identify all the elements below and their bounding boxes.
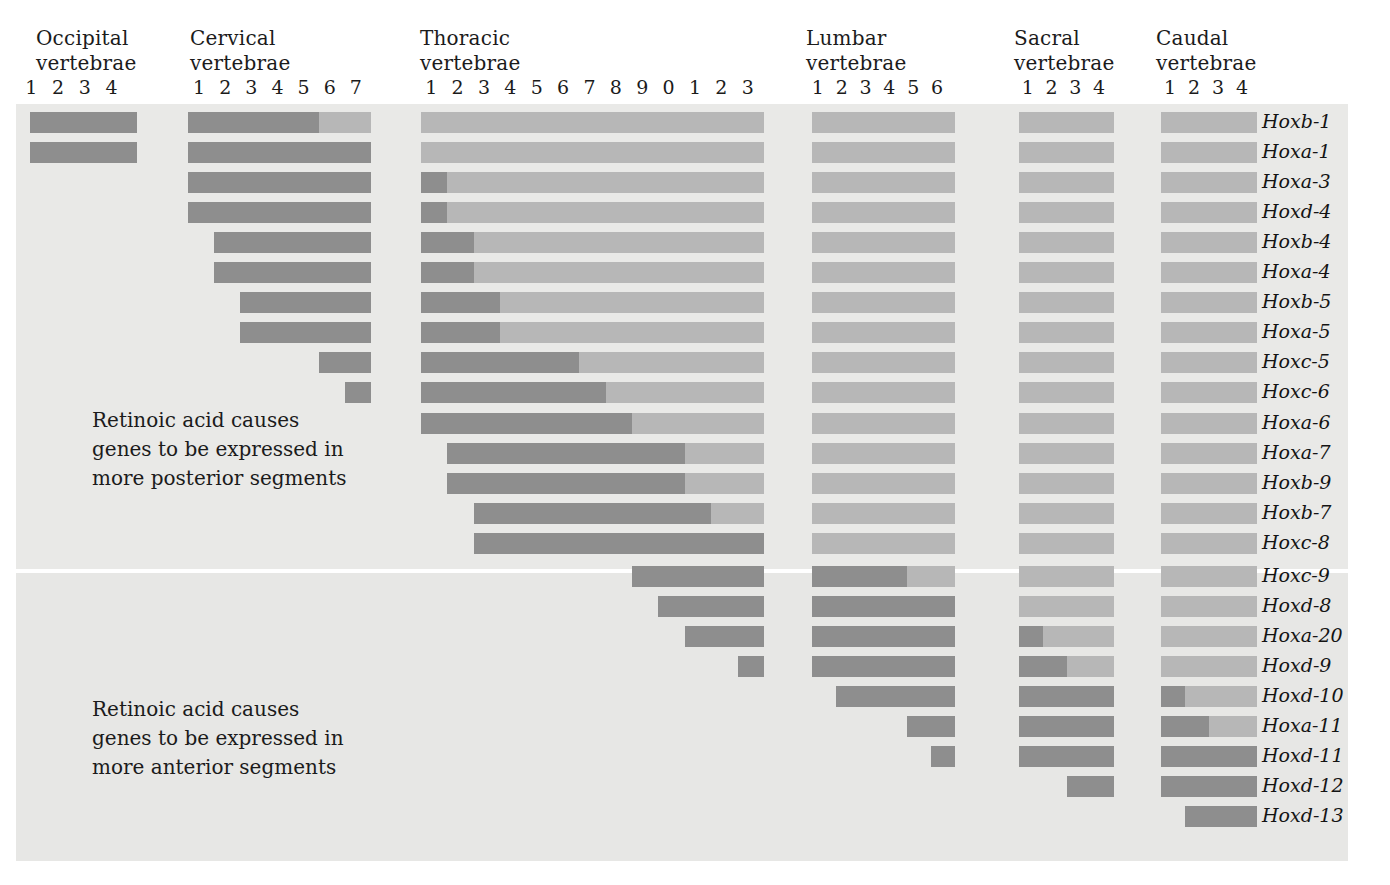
expression-band-cervical-dark: [188, 142, 371, 163]
bar-row: [0, 626, 1340, 647]
expression-band-caudal-light: [1161, 443, 1257, 464]
expression-band-cervical-dark: [319, 352, 371, 373]
bar-row: [0, 503, 1340, 524]
expression-band-sacral-light: [1019, 382, 1114, 403]
expression-band-caudal-light: [1161, 322, 1257, 343]
expression-band-sacral-light: [1019, 172, 1114, 193]
bar-row: [0, 322, 1340, 343]
expression-band-caudal-light: [1161, 626, 1257, 647]
vertebra-number-thoracic-7: 7: [576, 76, 602, 98]
expression-band-sacral-light: [1019, 533, 1114, 554]
expression-band-cervical-dark: [188, 172, 371, 193]
expression-band-caudal-light: [1161, 596, 1257, 617]
gene-label: Hoxd-11: [1262, 745, 1343, 766]
expression-band-caudal-light: [1161, 352, 1257, 373]
gene-label: Hoxb-1: [1262, 111, 1331, 132]
gene-label: Hoxa-20: [1262, 625, 1343, 646]
vertebra-number-thoracic-9: 9: [629, 76, 655, 98]
gene-label: Hoxd-8: [1262, 595, 1331, 616]
expression-band-sacral-light: [1019, 473, 1114, 494]
expression-band-sacral-dark: [1019, 686, 1114, 707]
expression-band-caudal-light: [1161, 292, 1257, 313]
number-row-cervical: 1234567: [186, 76, 393, 98]
expression-band-caudal-light: [1161, 112, 1257, 133]
expression-band-sacral-light: [1019, 443, 1114, 464]
expression-band-thoracic-light: [500, 322, 764, 343]
expression-band-sacral-dark: [1067, 776, 1115, 797]
expression-band-sacral-light: [1067, 656, 1115, 677]
bar-row: [0, 202, 1340, 223]
bar-row: [0, 596, 1340, 617]
bar-row: [0, 382, 1340, 403]
vertebra-number-caudal-2: 2: [1182, 76, 1206, 98]
expression-band-thoracic-light: [579, 352, 764, 373]
expression-band-lumbar-light: [812, 413, 955, 434]
annotation-posterior: Retinoic acid causes genes to be express…: [92, 406, 347, 493]
vertebra-number-sacral-2: 2: [1040, 76, 1064, 98]
gene-label: Hoxb-5: [1262, 291, 1331, 312]
expression-band-thoracic-light: [685, 473, 764, 494]
vertebra-number-cervical-5: 5: [291, 76, 317, 98]
expression-band-thoracic-light: [606, 382, 764, 403]
gene-label: Hoxc-9: [1262, 565, 1330, 586]
expression-band-caudal-light: [1161, 262, 1257, 283]
gene-label: Hoxb-4: [1262, 231, 1331, 252]
vertebra-number-thoracic-4: 4: [497, 76, 523, 98]
expression-band-cervical-dark: [240, 292, 371, 313]
expression-band-caudal-dark: [1161, 776, 1257, 797]
gene-label: Hoxd-12: [1262, 775, 1343, 796]
expression-band-caudal-light: [1161, 382, 1257, 403]
expression-band-thoracic-dark: [447, 473, 711, 494]
expression-band-caudal-light: [1161, 142, 1257, 163]
expression-band-sacral-light: [1019, 596, 1114, 617]
expression-band-cervical-dark: [240, 322, 371, 343]
gene-label: Hoxa-4: [1262, 261, 1331, 282]
gene-label: Hoxa-11: [1262, 715, 1343, 736]
expression-band-caudal-dark: [1161, 746, 1257, 767]
expression-band-caudal-light: [1161, 473, 1257, 494]
expression-band-caudal-light: [1161, 413, 1257, 434]
vertebra-number-thoracic-8: 8: [603, 76, 629, 98]
vertebra-number-occipital-2: 2: [45, 76, 72, 98]
expression-band-thoracic-dark: [421, 413, 658, 434]
gene-label: Hoxd-4: [1262, 201, 1331, 222]
expression-band-sacral-light: [1019, 262, 1114, 283]
expression-band-thoracic-light: [447, 202, 764, 223]
group-header-thoracic: Thoracic vertebrae: [420, 26, 521, 76]
gene-label: Hoxa-5: [1262, 321, 1331, 342]
vertebra-number-lumbar-5: 5: [901, 76, 925, 98]
bar-row: [0, 352, 1340, 373]
expression-band-thoracic-light: [474, 262, 764, 283]
gene-label: Hoxa-3: [1262, 171, 1331, 192]
group-header-occipital: Occipital vertebrae: [36, 26, 137, 76]
expression-band-caudal-light: [1161, 566, 1257, 587]
bar-row: [0, 172, 1340, 193]
expression-band-caudal-light: [1161, 232, 1257, 253]
vertebra-number-thoracic-0: 0: [655, 76, 681, 98]
expression-band-sacral-light: [1019, 566, 1114, 587]
vertebra-number-thoracic-6: 6: [550, 76, 576, 98]
vertebra-number-lumbar-6: 6: [925, 76, 949, 98]
gene-label: Hoxc-8: [1262, 532, 1330, 553]
vertebra-number-lumbar-2: 2: [830, 76, 854, 98]
expression-band-sacral-light: [1019, 232, 1114, 253]
expression-band-sacral-light: [1019, 352, 1114, 373]
bar-row: [0, 112, 1340, 133]
expression-band-caudal-light: [1209, 716, 1257, 737]
expression-band-thoracic-dark: [421, 382, 632, 403]
expression-band-sacral-light: [1019, 292, 1114, 313]
expression-band-thoracic-light: [685, 443, 764, 464]
vertebra-number-occipital-4: 4: [98, 76, 125, 98]
expression-band-thoracic-dark: [685, 626, 764, 647]
bar-row: [0, 533, 1340, 554]
expression-band-thoracic-dark: [474, 503, 738, 524]
expression-band-thoracic-dark: [474, 533, 764, 554]
gene-label: Hoxc-5: [1262, 351, 1330, 372]
expression-band-lumbar-light: [812, 112, 955, 133]
group-header-lumbar: Lumbar vertebrae: [806, 26, 907, 76]
expression-band-thoracic-light: [421, 112, 764, 133]
bar-row: [0, 566, 1340, 587]
gene-label: Hoxb-9: [1262, 472, 1331, 493]
expression-band-thoracic-light: [447, 172, 764, 193]
group-header-cervical: Cervical vertebrae: [190, 26, 291, 76]
